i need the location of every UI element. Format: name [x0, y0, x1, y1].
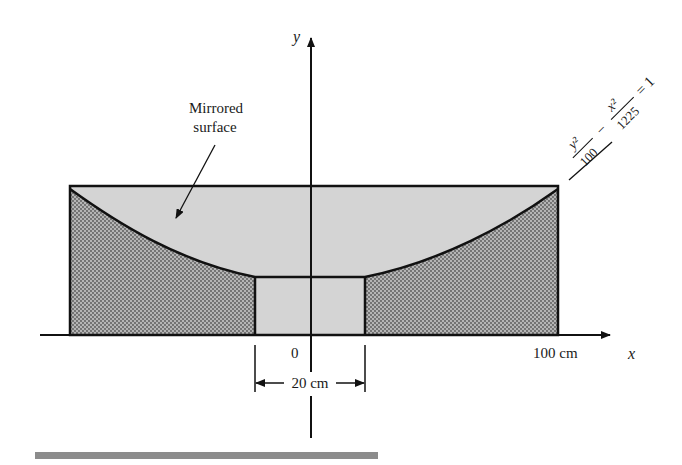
bottom-bar [35, 452, 378, 459]
svg-text:100: 100 [576, 145, 600, 169]
hyperbola-equation: y² 100 − x² 1225 = 1 [561, 67, 665, 171]
y-axis-label: y [291, 28, 301, 46]
svg-text:= 1: = 1 [632, 73, 657, 98]
annotation-line1: Mirrored [189, 100, 244, 116]
origin-label: 0 [291, 345, 299, 361]
x-tick-100cm: 100 cm [533, 345, 578, 361]
dimension-label: 20 cm [291, 375, 328, 391]
annotation-line2: surface [193, 119, 237, 135]
svg-text:−: − [593, 121, 610, 138]
x-axis-label: x [627, 345, 635, 362]
hyperbolic-mirror-diagram: y x 0 100 cm 20 cm Mirrored surface y² 1… [0, 0, 682, 465]
